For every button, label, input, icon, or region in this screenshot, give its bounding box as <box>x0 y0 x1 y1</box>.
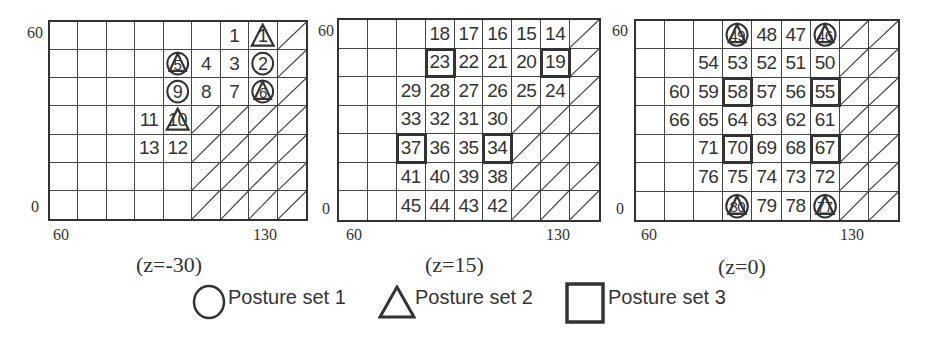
position-cell: 2 <box>249 50 277 78</box>
empty-cell <box>665 135 694 163</box>
position-cell: 69 <box>752 135 781 163</box>
empty-cell <box>368 134 397 163</box>
hatch-line-icon <box>192 135 219 162</box>
empty-cell <box>107 22 135 50</box>
position-cell: 65 <box>694 106 723 134</box>
cell-number: 65 <box>694 109 722 131</box>
empty-cell <box>339 20 368 49</box>
position-cell: 23 <box>426 49 455 78</box>
hatch-line-icon <box>570 20 599 48</box>
hatched-cell <box>869 21 898 49</box>
cell-number: 4 <box>192 53 219 75</box>
hatch-line-icon <box>869 49 898 76</box>
cell-number: 29 <box>397 80 425 102</box>
position-cell: 32 <box>426 106 455 135</box>
empty-cell <box>570 134 599 163</box>
empty-cell <box>50 106 78 134</box>
cell-number: 79 <box>752 195 780 217</box>
axis-tick-y-bottom: 0 <box>616 200 624 218</box>
position-cell: 70 <box>723 135 752 163</box>
position-cell: 31 <box>455 106 484 135</box>
empty-cell <box>636 106 665 134</box>
position-cell: 29 <box>397 77 426 106</box>
cell-number: 17 <box>455 23 483 45</box>
cell-number: 56 <box>782 81 810 103</box>
position-cell: 76 <box>694 163 723 191</box>
position-cell: 40 <box>426 163 455 192</box>
position-cell: 8 <box>192 78 220 106</box>
cell-number: 22 <box>455 51 483 73</box>
position-cell: 68 <box>782 135 811 163</box>
position-cell: 3 <box>221 50 249 78</box>
hatched-cell <box>278 78 306 106</box>
hatched-cell <box>249 135 277 163</box>
hatch-line-icon <box>278 78 306 105</box>
empty-cell <box>135 22 163 50</box>
cell-number: 61 <box>811 109 839 131</box>
hatched-cell <box>512 106 541 135</box>
position-cell: 59 <box>694 78 723 106</box>
hatched-cell <box>249 106 277 134</box>
empty-cell <box>368 49 397 78</box>
empty-cell <box>339 191 368 220</box>
position-cell: 49 <box>723 21 752 49</box>
cell-number: 62 <box>782 109 810 131</box>
hatched-cell <box>541 106 570 135</box>
cell-number: 28 <box>426 80 454 102</box>
position-cell: 19 <box>541 49 570 78</box>
position-cell: 16 <box>483 20 512 49</box>
empty-cell <box>339 77 368 106</box>
cell-number: 49 <box>723 26 751 43</box>
position-cell: 36 <box>426 134 455 163</box>
empty-cell <box>78 78 106 106</box>
position-cell: 1 <box>221 22 249 50</box>
cell-number: 10 <box>164 109 191 130</box>
cell-number: 54 <box>694 52 722 74</box>
position-cell: 18 <box>426 20 455 49</box>
position-cell: 78 <box>782 192 811 220</box>
hatched-cell <box>512 134 541 163</box>
position-cell: 11 <box>135 106 163 134</box>
empty-cell <box>107 106 135 134</box>
cell-number: 52 <box>752 52 780 74</box>
cell-number: 13 <box>135 137 162 159</box>
position-cell: 12 <box>164 135 192 163</box>
cell-number: 45 <box>397 195 425 217</box>
cell-number: 47 <box>782 24 810 46</box>
hatch-line-icon <box>192 191 219 219</box>
cell-number: 12 <box>164 137 191 159</box>
cell-number: 66 <box>665 109 693 131</box>
hatched-cell <box>570 106 599 135</box>
panel-caption: (z=-30) <box>136 252 202 278</box>
hatched-cell <box>869 163 898 191</box>
position-cell: 61 <box>811 106 840 134</box>
cell-number: 27 <box>455 80 483 102</box>
position-cell: 6 <box>249 78 277 106</box>
hatch-line-icon <box>512 106 540 134</box>
position-cell: 51 <box>782 49 811 77</box>
hatch-line-icon <box>840 163 868 190</box>
hatched-cell <box>541 163 570 192</box>
empty-cell <box>368 106 397 135</box>
cell-number: 14 <box>541 23 569 45</box>
panel-caption: (z=15) <box>425 252 484 278</box>
legend-label-posture-set-2: Posture set 2 <box>415 286 533 309</box>
cell-number: 46 <box>811 26 839 43</box>
grid-panel-3: 4948474654535251506059585756556665646362… <box>634 19 900 222</box>
cell-number: 37 <box>397 137 425 159</box>
position-cell: 35 <box>455 134 484 163</box>
hatch-line-icon <box>221 135 248 162</box>
position-cell: 30 <box>483 106 512 135</box>
cell-number: 5 <box>164 55 191 72</box>
triangle-icon <box>378 285 416 319</box>
hatched-cell <box>278 50 306 78</box>
hatched-cell <box>278 22 306 50</box>
position-cell: 54 <box>694 49 723 77</box>
hatch-line-icon <box>541 163 569 191</box>
cell-number: 63 <box>752 109 780 131</box>
empty-cell <box>107 78 135 106</box>
position-cell: 77 <box>811 192 840 220</box>
legend-label-posture-set-3: Posture set 3 <box>608 286 726 309</box>
position-cell: 28 <box>426 77 455 106</box>
hatched-cell <box>570 20 599 49</box>
